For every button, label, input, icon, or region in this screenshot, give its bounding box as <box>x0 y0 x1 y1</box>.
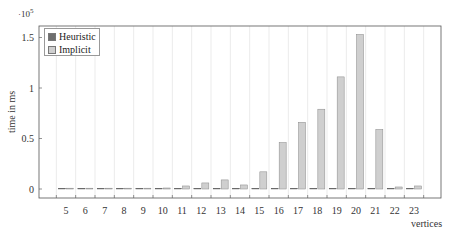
bar-heuristic <box>59 188 66 189</box>
x-tick-label: 16 <box>274 205 284 216</box>
x-tick-label: 14 <box>235 205 245 216</box>
y-tick-label: 1 <box>29 83 34 94</box>
bar-implicit <box>415 186 422 189</box>
legend-swatch-icon <box>48 33 56 41</box>
x-tick-label: 7 <box>102 205 107 216</box>
bar-heuristic <box>291 188 298 189</box>
bar-implicit <box>241 185 248 189</box>
x-tick-label: 20 <box>351 205 361 216</box>
bar-heuristic <box>233 188 240 189</box>
x-tick-label: 8 <box>122 205 127 216</box>
x-tick-label: 22 <box>390 205 400 216</box>
bar-heuristic <box>310 188 317 189</box>
bar-heuristic <box>175 188 182 189</box>
bar-heuristic <box>329 188 336 189</box>
x-axis-label: vertices <box>411 218 442 229</box>
bar-heuristic <box>368 188 375 189</box>
legend-item-heuristic: Heuristic <box>48 30 96 43</box>
bar-implicit <box>202 183 209 189</box>
bar-implicit <box>221 180 228 189</box>
legend-label: Heuristic <box>59 30 96 43</box>
y-tick-label: 1.5 <box>22 32 35 43</box>
x-tick-label: 11 <box>177 205 187 216</box>
y-scale-label: ·105 <box>18 7 34 19</box>
x-tick-label: 17 <box>293 205 303 216</box>
x-tick-label: 12 <box>196 205 206 216</box>
x-tick-label: 6 <box>83 205 88 216</box>
bar-heuristic <box>407 188 414 189</box>
bar-implicit <box>318 109 325 189</box>
legend-label: Implicit <box>59 43 91 56</box>
bar-heuristic <box>117 188 124 189</box>
bar-heuristic <box>387 188 394 189</box>
bar-implicit <box>260 172 267 189</box>
bar-implicit <box>395 187 402 189</box>
x-tick-label: 13 <box>216 205 226 216</box>
x-tick-label: 19 <box>332 205 342 216</box>
bar-heuristic <box>194 188 201 189</box>
grid-lines <box>56 26 423 198</box>
x-tick-label: 23 <box>409 205 419 216</box>
legend: Heuristic Implicit <box>44 28 100 56</box>
bar-implicit <box>299 122 306 189</box>
bar-implicit <box>144 188 151 189</box>
bar-implicit <box>376 129 383 189</box>
bar-heuristic <box>78 188 85 189</box>
legend-item-implicit: Implicit <box>48 43 96 56</box>
bar-heuristic <box>252 188 259 189</box>
legend-swatch-icon <box>48 46 56 54</box>
bar-heuristic <box>349 188 356 189</box>
bar-heuristic <box>271 188 278 189</box>
x-tick-label: 9 <box>141 205 146 216</box>
bar-heuristic <box>155 188 162 189</box>
bar-heuristic <box>136 188 143 189</box>
bar-heuristic <box>97 188 104 189</box>
x-tick-label: 21 <box>370 205 380 216</box>
bar-implicit <box>125 188 132 189</box>
x-tick-label: 18 <box>312 205 322 216</box>
bar-implicit <box>357 34 364 189</box>
y-tick-label: 0.5 <box>22 133 35 144</box>
bars <box>59 34 422 189</box>
bar-implicit <box>67 188 74 189</box>
bar-heuristic <box>213 188 220 189</box>
bar-implicit <box>183 186 190 189</box>
x-tick-label: 5 <box>64 205 69 216</box>
bar-implicit <box>337 77 344 189</box>
bar-implicit <box>105 188 112 189</box>
bar-implicit <box>163 188 170 189</box>
x-tick-label: 15 <box>254 205 264 216</box>
bar-implicit <box>86 188 93 189</box>
x-tick-label: 10 <box>158 205 168 216</box>
y-tick-label: 0 <box>29 184 34 195</box>
y-axis-label: time in ms <box>6 91 17 133</box>
bar-implicit <box>279 143 286 189</box>
